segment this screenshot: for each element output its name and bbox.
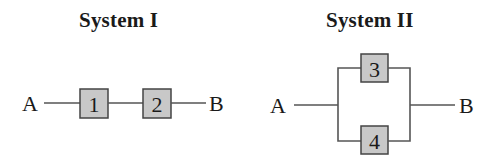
- component-2: 2: [143, 89, 171, 118]
- system-2-output-label: B: [459, 93, 474, 118]
- system-1-diagram: A 1 2 B: [22, 89, 224, 118]
- component-1-label: 1: [89, 92, 100, 117]
- component-3-label: 3: [369, 57, 380, 82]
- wire-right-branch: [388, 68, 410, 141]
- component-1: 1: [80, 89, 108, 118]
- system-2-diagram: A 3 4 B: [270, 54, 474, 154]
- system-1-input-label: A: [22, 91, 38, 116]
- component-3: 3: [361, 54, 388, 82]
- system-1-output-label: B: [209, 91, 224, 116]
- component-4-label: 4: [369, 129, 380, 154]
- reliability-diagram: A 1 2 B A 3 4 B: [0, 0, 486, 159]
- wire-left-branch: [338, 68, 361, 141]
- component-2-label: 2: [152, 92, 163, 117]
- system-2-input-label: A: [270, 93, 286, 118]
- component-4: 4: [361, 126, 388, 154]
